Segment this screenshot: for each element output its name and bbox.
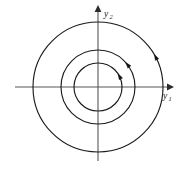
x-axis-label-subscript: 1	[169, 95, 172, 102]
y-axis-label-subscript: 2	[110, 13, 114, 20]
phase-portrait-canvas: y 1 y 2	[0, 0, 180, 169]
flow-arrowhead-middle	[126, 62, 131, 68]
flow-direction-arrows-group	[118, 54, 159, 79]
axis-labels-group: y 1 y 2	[103, 9, 172, 102]
y-axis-label: y	[103, 9, 109, 19]
horizontal-axis-arrowhead	[167, 84, 174, 91]
flow-arrowhead-outer	[154, 54, 159, 60]
phase-portrait-figure: y 1 y 2	[0, 0, 180, 169]
x-axis-label: y	[162, 91, 168, 101]
axes-group	[15, 5, 174, 161]
vertical-axis-arrowhead	[95, 5, 102, 12]
flow-arrowhead-inner	[118, 74, 123, 80]
